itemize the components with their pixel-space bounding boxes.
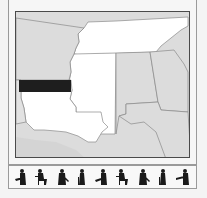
guitarist-icon <box>94 168 110 186</box>
map <box>15 11 190 158</box>
guitarist-icon <box>14 168 30 186</box>
bassist-icon <box>74 168 90 186</box>
drummer-icon <box>34 168 50 186</box>
drummer-icon <box>115 168 131 186</box>
trumpeter-icon <box>175 168 191 186</box>
highlight-band[interactable] <box>19 80 71 92</box>
fiddler-icon <box>54 168 70 186</box>
musician-strip <box>8 165 197 189</box>
fiddler-icon <box>135 168 151 186</box>
southeast-map <box>16 12 190 158</box>
bassist-icon <box>155 168 171 186</box>
